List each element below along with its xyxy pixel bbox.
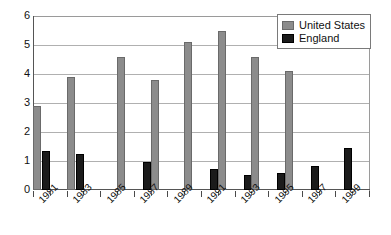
bar-united-states-1983 (67, 77, 75, 190)
y-axis: 0123456 (0, 0, 30, 235)
bar-united-states-1986 (117, 57, 125, 190)
x-axis-tick (201, 191, 202, 197)
x-axis-tick (369, 191, 370, 197)
legend-swatch-icon-england (282, 34, 294, 43)
x-axis-tick (67, 191, 68, 197)
y-axis-tick-label: 2 (4, 126, 30, 137)
bar-united-states-1994 (251, 57, 259, 190)
y-axis-tick-label: 5 (4, 39, 30, 50)
legend-item-england: England (282, 32, 365, 44)
x-axis-tick (235, 191, 236, 197)
legend-swatch-icon-united-states (282, 21, 294, 30)
legend-label-england: England (299, 32, 339, 44)
bar-chart: 0123456 19811983198519871989199119931995… (0, 0, 391, 235)
legend-item-united-states: United States (282, 19, 365, 31)
legend-label-united-states: United States (299, 19, 365, 31)
bar-united-states-1996 (285, 71, 293, 190)
x-axis-tick (335, 191, 336, 197)
bar-united-states-1988 (151, 80, 159, 190)
y-axis-tick-label: 6 (4, 10, 30, 21)
x-axis-tick (268, 191, 269, 197)
y-axis-tick-label: 0 (4, 184, 30, 195)
bar-united-states-1990 (184, 42, 192, 190)
x-axis-tick (167, 191, 168, 197)
y-axis-tick-label: 4 (4, 68, 30, 79)
bar-united-states-1992 (218, 31, 226, 191)
x-axis-tick (302, 191, 303, 197)
bar-united-states-1981 (33, 106, 41, 190)
x-axis-tick (33, 191, 34, 197)
x-axis-tick (100, 191, 101, 197)
y-axis-tick-label: 3 (4, 97, 30, 108)
chart-legend: United States England (277, 14, 371, 49)
x-axis-tick (134, 191, 135, 197)
y-axis-tick-label: 1 (4, 155, 30, 166)
